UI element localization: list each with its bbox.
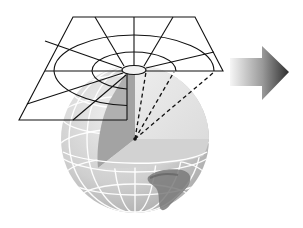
arrow-right-icon [230, 46, 289, 100]
azimuthal-projection-diagram [0, 0, 303, 228]
globe-center-point [133, 137, 137, 141]
